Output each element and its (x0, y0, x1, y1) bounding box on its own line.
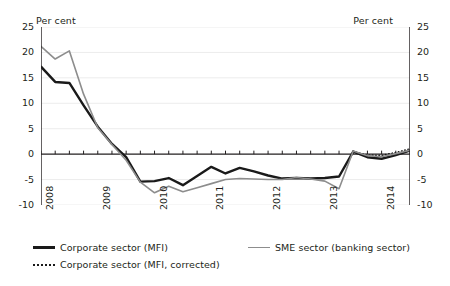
y-axis-tick-label-right: 25 (417, 22, 429, 32)
y-axis-tick-label-right: 10 (417, 98, 429, 108)
dotted-black-line-icon (33, 260, 55, 270)
x-axis-tick-label: 2008 (45, 186, 55, 210)
legend-label-corporate-sector: Corporate sector (MFI) (60, 242, 168, 253)
legend-label-sme-sector: SME sector (banking sector) (275, 242, 410, 253)
y-axis-tick-label-left: 0 (0, 149, 34, 159)
y-axis-tick-label-left: 15 (0, 73, 34, 83)
y-axis-tick-label-left: 20 (0, 47, 34, 57)
legend-item-corporate-sector: Corporate sector (MFI) (33, 242, 168, 253)
legend-item-sme-sector: SME sector (banking sector) (248, 242, 410, 253)
y-axis-tick-label-left: 25 (0, 22, 34, 32)
y-axis-tick-label-right: 20 (417, 47, 429, 57)
axis-spines (41, 27, 410, 205)
x-axis-tick-label: 2014 (386, 186, 396, 210)
legend-item-corporate-sector-corrected: Corporate sector (MFI, corrected) (33, 259, 220, 270)
legend-label-corporate-sector-corrected: Corporate sector (MFI, corrected) (60, 259, 220, 270)
y-axis-tick-label-right: 5 (417, 124, 423, 134)
y-axis-tick-label-left: -10 (0, 200, 34, 210)
solid-gray-line-icon (248, 243, 270, 253)
y-axis-tick-label-left: -5 (0, 175, 34, 185)
y-axis-tick-label-left: 5 (0, 124, 34, 134)
y-axis-unit-label-right: Per cent (353, 15, 393, 26)
y-axis-tick-label-right: -5 (417, 175, 426, 185)
chart-figure: Per cent Per cent 2520151050-5-10 252015… (0, 0, 450, 286)
x-axis-tick-label: 2010 (159, 186, 169, 210)
x-axis-tick-label: 2011 (215, 186, 225, 210)
x-axis-tick-label: 2013 (329, 186, 339, 210)
x-axis-tick-label: 2009 (102, 186, 112, 210)
solid-thick-black-line-icon (33, 243, 55, 253)
chart-canvas (41, 27, 410, 205)
y-axis-tick-label-left: 10 (0, 98, 34, 108)
y-axis-tick-label-right: 0 (417, 149, 423, 159)
gridlines (41, 27, 410, 205)
chart-legend: Corporate sector (MFI) Corporate sector … (0, 240, 450, 286)
plot-area (41, 27, 410, 205)
y-axis-tick-label-right: 15 (417, 73, 429, 83)
y-axis-tick-label-right: -10 (417, 200, 433, 210)
data-series-group (41, 46, 410, 192)
y-axis-unit-label-left: Per cent (36, 15, 76, 26)
x-axis-tick-label: 2012 (272, 186, 282, 210)
